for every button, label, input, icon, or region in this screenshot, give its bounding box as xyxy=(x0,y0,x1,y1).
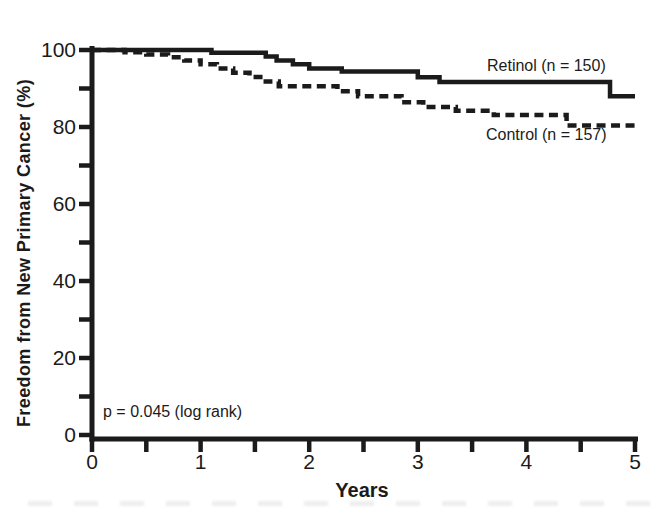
y-tick-label: 100 xyxy=(41,38,76,61)
x-tick-label: 0 xyxy=(86,450,98,473)
y-tick-label: 0 xyxy=(64,423,76,446)
km-survival-figure: 020406080100012345 Freedom from New Prim… xyxy=(0,0,666,510)
cropped-caption-remnant xyxy=(28,501,652,506)
y-axis-title: Freedom from New Primary Cancer (%) xyxy=(14,79,35,427)
x-tick-label: 3 xyxy=(412,450,424,473)
x-tick-label: 5 xyxy=(629,450,641,473)
y-tick-label: 60 xyxy=(53,192,76,215)
x-tick-label: 4 xyxy=(521,450,533,473)
y-tick-label: 20 xyxy=(53,346,76,369)
y-tick-label: 80 xyxy=(53,115,76,138)
control-curve-label: Control (n = 157) xyxy=(486,126,607,144)
x-tick-label: 1 xyxy=(195,450,207,473)
x-tick-label: 2 xyxy=(303,450,315,473)
km-chart-canvas: 020406080100012345 xyxy=(0,0,666,510)
retinol-curve-label: Retinol (n = 150) xyxy=(487,57,606,75)
x-axis-title: Years xyxy=(335,479,388,502)
y-tick-label: 40 xyxy=(53,269,76,292)
p-value-annotation: p = 0.045 (log rank) xyxy=(103,403,242,421)
